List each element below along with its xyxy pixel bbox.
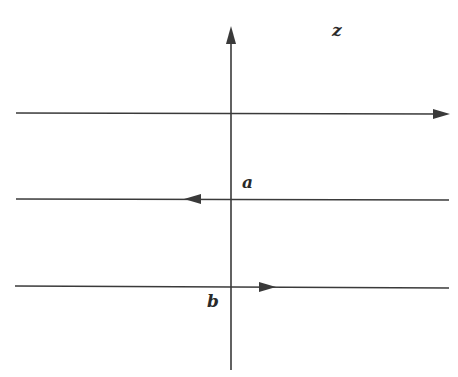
- label-a: a: [242, 174, 253, 191]
- label-z: z: [332, 22, 342, 39]
- arrow-right-icon: [433, 109, 450, 119]
- arrow-right-icon: [259, 282, 276, 292]
- arrow-left-icon: [184, 194, 201, 204]
- line-bottom-b: [15, 282, 449, 292]
- arrow-up-icon: [226, 26, 236, 44]
- diagram-canvas: [0, 0, 458, 377]
- vertical-axis: [226, 26, 236, 370]
- line-middle-a: [16, 194, 449, 204]
- label-b: b: [207, 293, 219, 310]
- line-top: [16, 109, 450, 119]
